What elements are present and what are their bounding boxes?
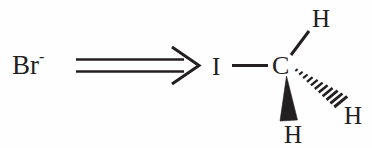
bond-carbon-hydrogen-top — [291, 31, 309, 55]
bond-carbon-hydrogen-solid-wedge — [280, 76, 298, 121]
bond-overlay — [0, 0, 372, 148]
implies-arrow-icon — [76, 47, 199, 84]
bond-carbon-hydrogen-hashed-wedge — [295, 69, 347, 107]
arrow-head — [172, 47, 199, 84]
chemistry-diagram: Br- I C H H H — [0, 0, 372, 148]
